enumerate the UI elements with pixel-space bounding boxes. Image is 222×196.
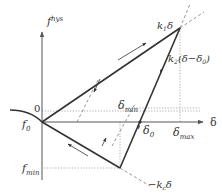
hysteresis-loop	[42, 28, 180, 168]
k2-label: k2(δ−δ0)	[168, 53, 210, 65]
loading-arrow	[118, 43, 146, 60]
y-axis-label: fhys	[46, 15, 64, 28]
zero-label: 0	[34, 103, 40, 114]
dashed-extensions	[76, 4, 204, 186]
lower-guide-arrow	[102, 138, 106, 146]
delta-max-label: δmax	[173, 126, 194, 141]
fmin-label: fmin	[21, 162, 40, 177]
delta-min-label: δmin	[118, 99, 139, 114]
kc-extension	[120, 168, 150, 186]
hysteresis-diagram: fhys δ 0 f0 fmin δmin δ0 δmax k1δ k2(δ−δ…	[0, 0, 222, 196]
delta0-label: δ0	[143, 124, 155, 139]
k1-label: k1δ	[157, 20, 173, 32]
f0-label: f0	[21, 118, 31, 133]
delta0-point	[138, 120, 141, 123]
reverse-branch	[42, 122, 120, 168]
k1-extension	[180, 12, 204, 28]
reference-lines	[42, 28, 200, 168]
reverse-arrow	[68, 144, 88, 156]
x-axis-label: δ	[210, 116, 217, 129]
kc-label: −kcδ	[148, 179, 172, 191]
